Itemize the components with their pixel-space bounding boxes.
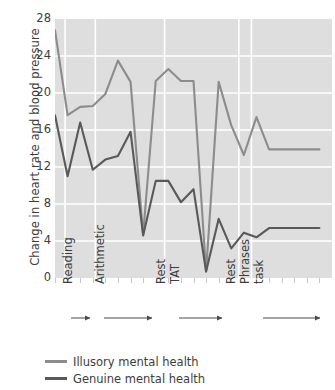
y-tick-0: 0 xyxy=(29,272,51,284)
x-tick-5 xyxy=(118,278,119,283)
x-tick-11 xyxy=(194,278,195,283)
chart-legend: Illusory mental health Genuine mental he… xyxy=(45,353,205,387)
legend-item-illusory: Illusory mental health xyxy=(45,353,205,370)
x-tick-7 xyxy=(143,278,144,283)
legend-label-genuine: Genuine mental health xyxy=(73,372,205,386)
legend-item-genuine: Genuine mental health xyxy=(45,370,205,387)
x-tick-2 xyxy=(80,278,81,283)
x-tick-13 xyxy=(219,278,220,283)
stage-label-reading: Reading xyxy=(63,237,75,284)
legend-label-illusory: Illusory mental health xyxy=(73,355,199,369)
stage-label-arithmetic: Arithmetic xyxy=(95,224,107,284)
x-tick-19 xyxy=(294,278,295,283)
legend-swatch-illusory xyxy=(45,360,67,363)
x-tick-20 xyxy=(307,278,308,283)
y-axis-tick-labels: 28 24 20 16 12 8 4 0 xyxy=(25,0,51,390)
chart-figure: Change in heart rate and blood pressure … xyxy=(0,0,335,390)
stage-label-task: task xyxy=(254,260,266,284)
y-tick-8: 8 xyxy=(29,198,51,210)
stage-label-tat: TAT xyxy=(170,264,182,284)
y-tick-24: 24 xyxy=(29,50,51,62)
x-tick-12 xyxy=(206,278,207,283)
x-tick-6 xyxy=(131,278,132,283)
x-tick-17 xyxy=(269,278,270,283)
legend-swatch-genuine xyxy=(45,377,67,380)
stage-label-rest-2: Rest xyxy=(226,259,238,284)
x-tick-18 xyxy=(282,278,283,283)
y-tick-4: 4 xyxy=(29,235,51,247)
y-tick-16: 16 xyxy=(29,124,51,136)
y-tick-20: 20 xyxy=(29,87,51,99)
x-tick-21 xyxy=(319,278,320,283)
y-tick-28: 28 xyxy=(29,13,51,25)
x-tick-0 xyxy=(55,278,56,283)
stage-label-phrases: Phrases xyxy=(240,239,252,284)
y-tick-12: 12 xyxy=(29,161,51,173)
stage-label-rest-1: Rest xyxy=(156,259,168,284)
